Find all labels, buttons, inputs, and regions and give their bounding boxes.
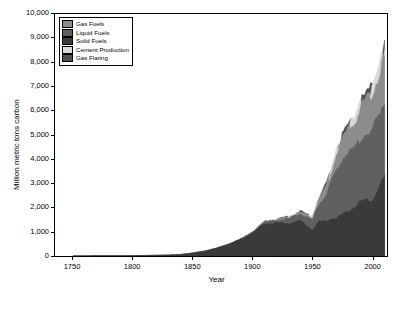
y-tick <box>51 37 54 38</box>
legend-swatch-icon <box>62 29 73 37</box>
y-tick-label: 5,000 <box>30 130 49 139</box>
y-tick <box>51 183 54 184</box>
x-tick-label: 1850 <box>181 262 203 271</box>
legend-item: Cement Production <box>62 46 129 55</box>
y-tick <box>51 13 54 14</box>
emissions-area-chart: 01,0002,0003,0004,0005,0006,0007,0008,00… <box>0 0 410 312</box>
y-tick-label: 3,000 <box>30 178 49 187</box>
y-tick-label: 6,000 <box>30 105 49 114</box>
plot-top-border <box>54 13 388 14</box>
y-tick <box>51 207 54 208</box>
legend-swatch-icon <box>62 54 73 62</box>
y-tick <box>51 232 54 233</box>
legend-label: Liquid Fuels <box>76 29 109 38</box>
x-axis <box>54 256 388 257</box>
y-tick-label: 4,000 <box>30 154 49 163</box>
y-tick <box>51 62 54 63</box>
x-tick <box>373 257 374 260</box>
x-axis-label: Year <box>209 275 225 284</box>
x-tick-label: 1750 <box>61 262 83 271</box>
y-axis-label: Million metric tons carbon <box>12 99 21 190</box>
x-tick <box>312 257 313 260</box>
x-tick <box>72 257 73 260</box>
y-tick <box>51 110 54 111</box>
x-tick <box>252 257 253 260</box>
plot-right-border <box>387 13 388 257</box>
x-tick <box>132 257 133 260</box>
legend-swatch-icon <box>62 46 73 54</box>
y-tick <box>51 86 54 87</box>
legend-swatch-icon <box>62 37 73 45</box>
legend-label: Cement Production <box>76 46 129 55</box>
y-tick-label: 7,000 <box>30 81 49 90</box>
y-tick-label: 9,000 <box>30 32 49 41</box>
y-tick <box>51 159 54 160</box>
x-tick-label: 1950 <box>301 262 323 271</box>
legend: Gas FuelsLiquid FuelsSolid FuelsCement P… <box>59 17 133 66</box>
legend-label: Gas Flaring <box>76 54 108 63</box>
legend-swatch-icon <box>62 20 73 28</box>
y-axis <box>54 13 55 257</box>
x-tick-label: 1900 <box>241 262 263 271</box>
legend-item: Gas Flaring <box>62 54 129 63</box>
y-tick <box>51 135 54 136</box>
x-tick-label: 1800 <box>121 262 143 271</box>
y-tick-label: 0 <box>45 251 49 260</box>
y-tick <box>51 256 54 257</box>
legend-label: Gas Fuels <box>76 20 104 29</box>
y-tick-label: 10,000 <box>26 8 49 17</box>
y-tick-label: 8,000 <box>30 57 49 66</box>
legend-item: Liquid Fuels <box>62 29 129 38</box>
x-tick <box>192 257 193 260</box>
y-tick-label: 1,000 <box>30 227 49 236</box>
legend-label: Solid Fuels <box>76 37 107 46</box>
y-tick-label: 2,000 <box>30 202 49 211</box>
x-tick-label: 2000 <box>362 262 384 271</box>
legend-item: Solid Fuels <box>62 37 129 46</box>
legend-item: Gas Fuels <box>62 20 129 29</box>
